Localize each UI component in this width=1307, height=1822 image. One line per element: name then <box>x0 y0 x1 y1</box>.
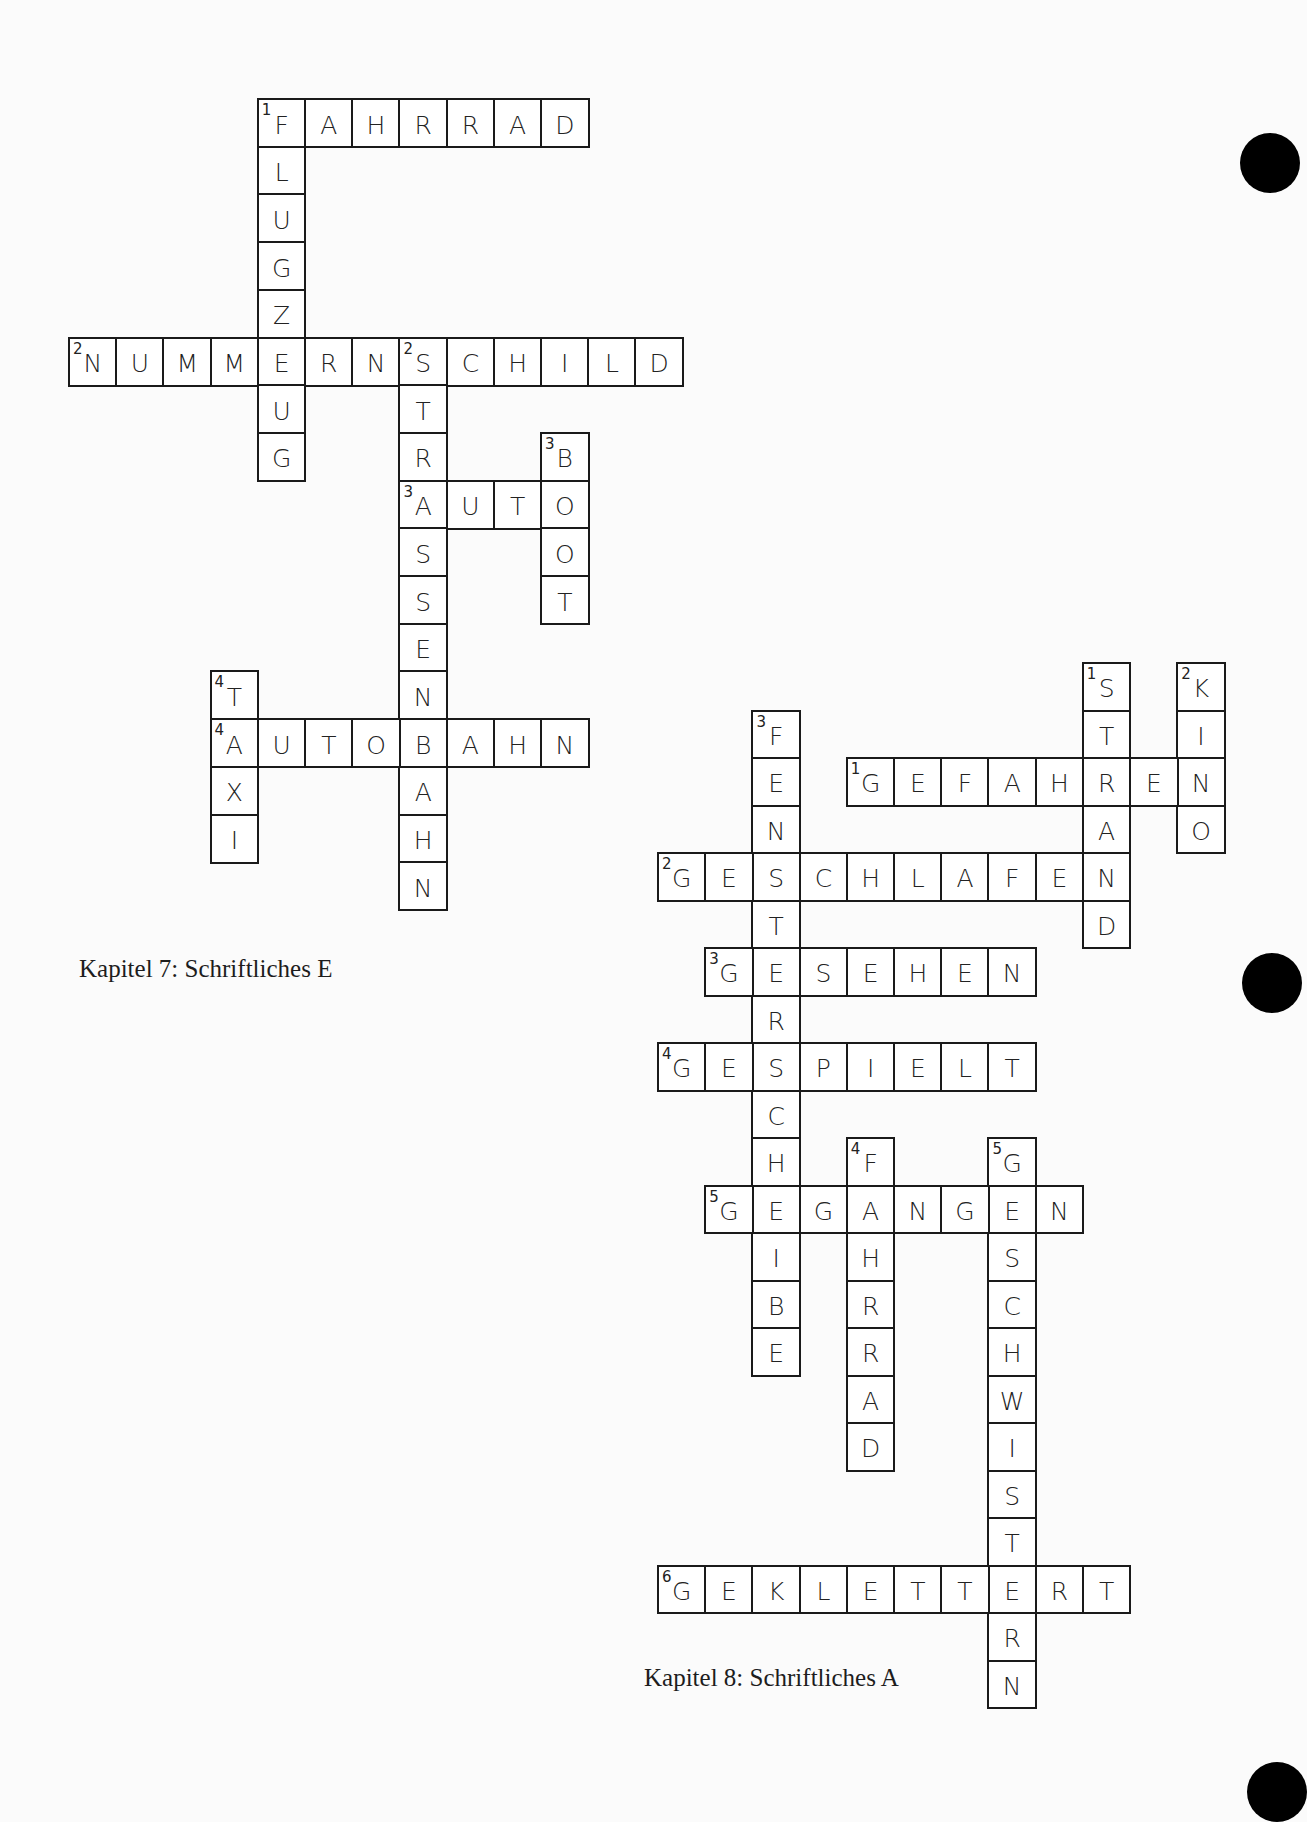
crossword-cell[interactable]: E <box>751 1185 801 1235</box>
crossword-cell[interactable]: T <box>493 480 543 530</box>
crossword-cell[interactable]: E <box>1035 852 1085 902</box>
crossword-cell[interactable]: R <box>1035 1565 1085 1615</box>
crossword-cell[interactable]: C <box>446 337 496 387</box>
crossword-cell[interactable]: 6G <box>657 1565 707 1615</box>
crossword-cell[interactable]: N <box>893 1185 943 1235</box>
crossword-cell[interactable]: E <box>704 1042 754 1092</box>
crossword-cell[interactable]: B <box>398 718 448 768</box>
crossword-cell[interactable]: T <box>893 1565 943 1615</box>
crossword-cell[interactable]: 1S <box>1082 662 1132 712</box>
crossword-cell[interactable]: Z <box>257 289 307 339</box>
crossword-cell[interactable]: 4G <box>657 1042 707 1092</box>
crossword-cell[interactable]: A <box>987 757 1037 807</box>
crossword-cell[interactable]: U <box>257 193 307 243</box>
crossword-cell[interactable]: 2S <box>398 337 448 387</box>
crossword-cell[interactable]: C <box>751 1090 801 1140</box>
crossword-cell[interactable]: B <box>751 1280 801 1330</box>
crossword-cell[interactable]: R <box>1082 757 1132 807</box>
crossword-cell[interactable]: C <box>987 1280 1037 1330</box>
crossword-cell[interactable]: O <box>540 480 590 530</box>
crossword-cell[interactable]: 1F <box>257 98 307 148</box>
crossword-cell[interactable]: 5G <box>987 1137 1037 1187</box>
crossword-cell[interactable]: G <box>257 241 307 291</box>
crossword-cell[interactable]: D <box>846 1422 896 1472</box>
crossword-cell[interactable]: N <box>1035 1185 1085 1235</box>
crossword-cell[interactable]: E <box>257 337 307 387</box>
crossword-cell[interactable]: U <box>257 384 307 434</box>
crossword-cell[interactable]: L <box>940 1042 990 1092</box>
crossword-cell[interactable]: 3G <box>704 947 754 997</box>
crossword-cell[interactable]: H <box>1035 757 1085 807</box>
crossword-cell[interactable]: G <box>799 1185 849 1235</box>
crossword-cell[interactable]: A <box>304 98 354 148</box>
crossword-cell[interactable]: T <box>398 384 448 434</box>
crossword-cell[interactable]: T <box>987 1517 1037 1567</box>
crossword-cell[interactable]: 4F <box>846 1137 896 1187</box>
crossword-cell[interactable]: H <box>893 947 943 997</box>
crossword-cell[interactable]: D <box>540 98 590 148</box>
crossword-cell[interactable]: S <box>751 1042 801 1092</box>
crossword-cell[interactable]: R <box>987 1612 1037 1662</box>
crossword-cell[interactable]: E <box>1129 757 1179 807</box>
crossword-cell[interactable]: 3A <box>398 480 448 530</box>
crossword-cell[interactable]: I <box>540 337 590 387</box>
crossword-cell[interactable]: E <box>846 947 896 997</box>
crossword-cell[interactable]: E <box>751 757 801 807</box>
crossword-cell[interactable]: D <box>1082 900 1132 950</box>
crossword-cell[interactable]: X <box>210 766 260 816</box>
crossword-cell[interactable]: E <box>704 1565 754 1615</box>
crossword-cell[interactable]: M <box>210 337 260 387</box>
crossword-cell[interactable]: 2N <box>68 337 118 387</box>
crossword-cell[interactable]: T <box>540 575 590 625</box>
crossword-cell[interactable]: T <box>1082 1565 1132 1615</box>
crossword-cell[interactable]: N <box>351 337 401 387</box>
crossword-cell[interactable]: N <box>987 1660 1037 1710</box>
crossword-cell[interactable]: 3F <box>751 710 801 760</box>
crossword-cell[interactable]: H <box>398 814 448 864</box>
crossword-cell[interactable]: G <box>257 432 307 482</box>
crossword-cell[interactable]: S <box>751 852 801 902</box>
crossword-cell[interactable]: N <box>987 947 1037 997</box>
crossword-cell[interactable]: H <box>987 1327 1037 1377</box>
crossword-cell[interactable]: A <box>446 718 496 768</box>
crossword-cell[interactable]: W <box>987 1375 1037 1425</box>
crossword-cell[interactable]: T <box>1082 710 1132 760</box>
crossword-cell[interactable]: T <box>987 1042 1037 1092</box>
crossword-cell[interactable]: M <box>162 337 212 387</box>
crossword-cell[interactable]: H <box>351 98 401 148</box>
crossword-cell[interactable]: S <box>398 575 448 625</box>
crossword-cell[interactable]: 3B <box>540 432 590 482</box>
crossword-cell[interactable]: A <box>940 852 990 902</box>
crossword-cell[interactable]: L <box>587 337 637 387</box>
crossword-cell[interactable]: 4A <box>210 718 260 768</box>
crossword-cell[interactable]: C <box>799 852 849 902</box>
crossword-cell[interactable]: T <box>751 900 801 950</box>
crossword-cell[interactable]: F <box>987 852 1037 902</box>
crossword-cell[interactable]: 5G <box>704 1185 754 1235</box>
crossword-cell[interactable]: H <box>751 1137 801 1187</box>
crossword-cell[interactable]: E <box>893 757 943 807</box>
crossword-cell[interactable]: A <box>493 98 543 148</box>
crossword-cell[interactable]: H <box>846 1232 896 1282</box>
crossword-cell[interactable]: R <box>398 432 448 482</box>
crossword-cell[interactable]: A <box>398 766 448 816</box>
crossword-cell[interactable]: R <box>846 1327 896 1377</box>
crossword-cell[interactable]: L <box>799 1565 849 1615</box>
crossword-cell[interactable]: H <box>846 852 896 902</box>
crossword-cell[interactable]: A <box>846 1185 896 1235</box>
crossword-cell[interactable]: 2G <box>657 852 707 902</box>
crossword-cell[interactable]: S <box>987 1470 1037 1520</box>
crossword-cell[interactable]: 1G <box>846 757 896 807</box>
crossword-cell[interactable]: T <box>304 718 354 768</box>
crossword-cell[interactable]: O <box>351 718 401 768</box>
crossword-cell[interactable]: O <box>1176 805 1226 855</box>
crossword-cell[interactable]: G <box>940 1185 990 1235</box>
crossword-cell[interactable]: S <box>987 1232 1037 1282</box>
crossword-cell[interactable]: R <box>304 337 354 387</box>
crossword-cell[interactable]: H <box>493 337 543 387</box>
crossword-cell[interactable]: E <box>987 1565 1037 1615</box>
crossword-cell[interactable]: E <box>846 1565 896 1615</box>
crossword-cell[interactable]: 2K <box>1176 662 1226 712</box>
crossword-cell[interactable]: I <box>1176 710 1226 760</box>
crossword-cell[interactable]: E <box>893 1042 943 1092</box>
